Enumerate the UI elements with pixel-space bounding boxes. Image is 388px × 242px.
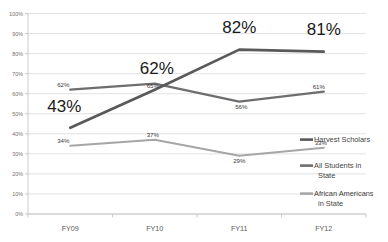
x-axis-tick-label: FY12 xyxy=(315,224,332,233)
data-label-all-students-in-state-FY10: 65% xyxy=(147,82,160,89)
y-axis-tick-label: 70% xyxy=(12,71,23,77)
legend-label-0: Harvest Scholars xyxy=(314,135,371,144)
x-axis-tick-label: FY10 xyxy=(146,224,163,233)
data-label-harvest-scholars-FY12: 81% xyxy=(307,20,341,39)
chart-svg: 0%10%20%30%40%50%60%70%80%90%100% FY09FY… xyxy=(0,0,388,242)
legend-label-1: All Students in xyxy=(314,161,361,170)
series-line-2 xyxy=(70,140,324,156)
y-axis-tick-label: 50% xyxy=(12,111,23,117)
series-line-1 xyxy=(70,84,324,102)
data-label-all-students-in-state-FY09: 62% xyxy=(57,81,70,88)
data-label-all-students-in-state-FY11: 56% xyxy=(235,103,248,110)
legend-label-2: in State xyxy=(318,199,343,208)
legend-label-1: State xyxy=(318,171,335,180)
plot-series xyxy=(70,50,324,156)
data-label-harvest-scholars-FY10: 62% xyxy=(140,59,174,78)
legend-label-2: African Americans xyxy=(314,189,374,198)
chart-legend: Harvest ScholarsAll Students inStateAfri… xyxy=(300,135,374,208)
x-axis: FY09FY10FY11FY12 xyxy=(28,214,366,233)
line-chart: 0%10%20%30%40%50%60%70%80%90%100% FY09FY… xyxy=(0,0,388,242)
y-axis-tick-label: 100% xyxy=(9,11,23,17)
data-label-african-americans-in-state-FY10: 37% xyxy=(147,131,160,138)
x-axis-tick-label: FY09 xyxy=(62,224,79,233)
x-axis-tick-label: FY11 xyxy=(231,224,248,233)
y-axis-tick-label: 40% xyxy=(12,131,23,137)
y-axis-tick-label: 20% xyxy=(12,171,23,177)
data-labels: 62%65%56%61%34%37%29%33%43%62%82%81% xyxy=(47,18,341,164)
y-axis-tick-label: 0% xyxy=(15,211,23,217)
data-label-harvest-scholars-FY11: 82% xyxy=(222,18,256,37)
y-axis-tick-label: 60% xyxy=(12,91,23,97)
series-line-0 xyxy=(70,50,324,128)
y-axis-tick-label: 90% xyxy=(12,31,23,37)
data-label-african-americans-in-state-FY11: 29% xyxy=(233,157,246,164)
data-label-harvest-scholars-FY09: 43% xyxy=(47,97,81,116)
y-axis-tick-label: 80% xyxy=(12,51,23,57)
y-axis-tick-label: 30% xyxy=(12,151,23,157)
y-axis: 0%10%20%30%40%50%60%70%80%90%100% xyxy=(9,11,28,218)
data-label-african-americans-in-state-FY09: 34% xyxy=(57,137,70,144)
y-axis-tick-label: 10% xyxy=(12,191,23,197)
data-label-all-students-in-state-FY12: 61% xyxy=(313,83,326,90)
